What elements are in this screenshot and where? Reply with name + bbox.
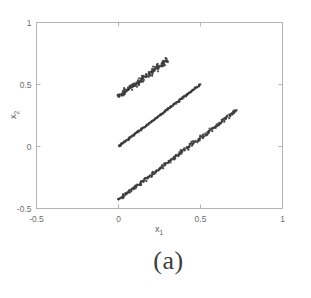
y-axis-title: x2 xyxy=(8,111,20,120)
svg-text:0.5: 0.5 xyxy=(20,80,32,90)
svg-text:0.5: 0.5 xyxy=(195,214,207,224)
cluster-middle xyxy=(118,83,201,147)
svg-text:0: 0 xyxy=(27,142,32,152)
data-series-layer xyxy=(117,57,238,201)
cluster-top xyxy=(117,57,169,98)
svg-text:-0.5: -0.5 xyxy=(17,204,32,214)
figure-panel: -0.500.51 -0.500.51 x1 x2 (a) xyxy=(0,0,311,298)
svg-text:1: 1 xyxy=(280,214,285,224)
svg-text:0: 0 xyxy=(116,214,121,224)
svg-text:x2: x2 xyxy=(8,111,20,120)
svg-text:-0.5: -0.5 xyxy=(29,214,44,224)
x-axis-tick-labels: -0.500.51 xyxy=(29,214,285,224)
x-axis-title: x1 xyxy=(155,224,164,236)
figure-caption: (a) xyxy=(0,246,311,276)
svg-text:1: 1 xyxy=(27,18,32,28)
cluster-bottom xyxy=(117,109,238,201)
